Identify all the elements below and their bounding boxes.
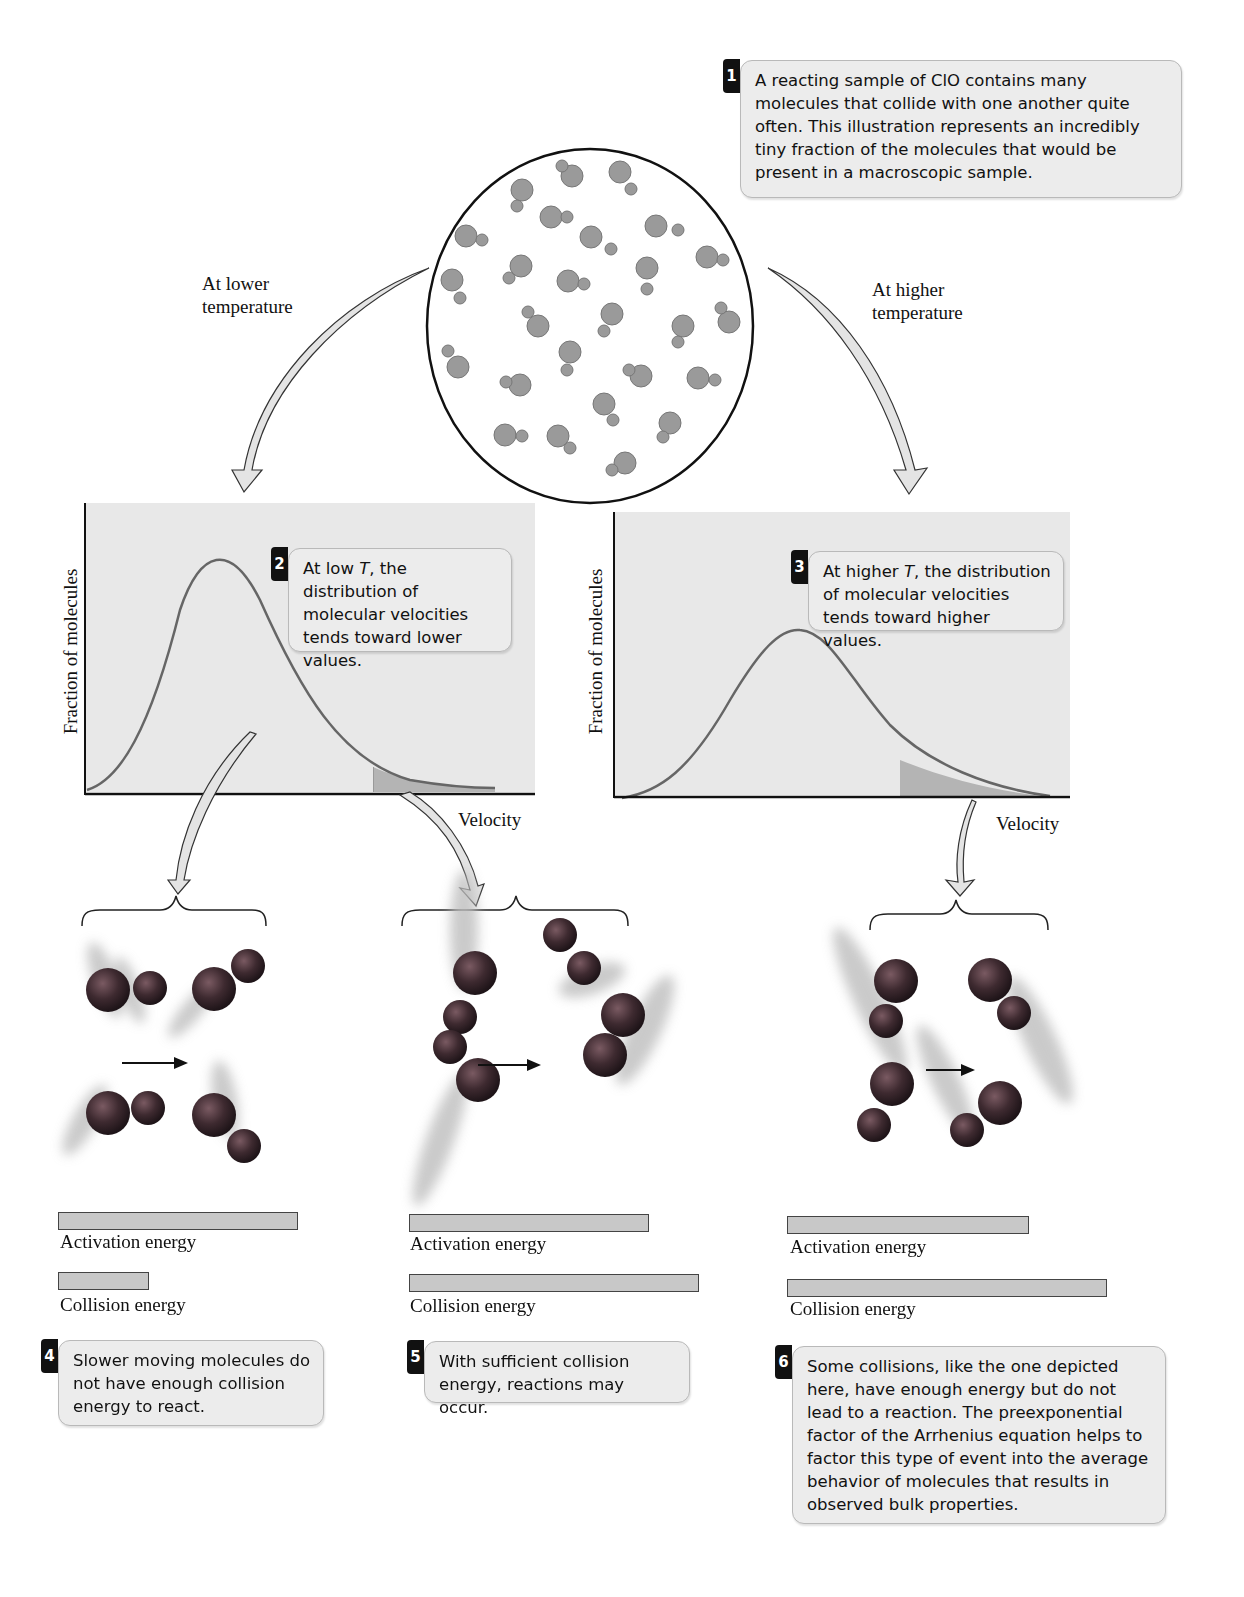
step-badge-2: 2 <box>271 547 288 581</box>
high-temperature-distribution-chart <box>610 500 1110 810</box>
collision-energy-label-1: Collision energy <box>60 1293 186 1316</box>
callout-5: 5 With sufficient collision energy, reac… <box>424 1341 690 1403</box>
collision-energy-bar-1 <box>58 1272 149 1290</box>
callout-6-text: Some collisions, like the one depicted h… <box>807 1357 1148 1514</box>
high-chart-ylabel: Fraction of molecules <box>584 562 607 742</box>
molecule-sample-circle <box>0 0 1244 520</box>
step-badge-3: 3 <box>791 550 808 584</box>
callout-2-text-italic: T <box>359 559 369 578</box>
lower-temperature-line1: At lower <box>202 272 293 295</box>
callout-3-text-italic: T <box>904 562 914 581</box>
lower-temperature-label: At lower temperature <box>202 272 293 318</box>
callout-3-text-pre: At higher <box>823 562 904 581</box>
collision-energy-bar-2 <box>409 1274 699 1292</box>
activation-energy-bar-3 <box>787 1216 1029 1234</box>
activation-energy-bar-1 <box>58 1212 298 1230</box>
collision-energy-label-2: Collision energy <box>410 1294 536 1317</box>
lower-temperature-line2: temperature <box>202 295 293 318</box>
activation-energy-label-1: Activation energy <box>60 1230 196 1253</box>
callout-6: 6 Some collisions, like the one depicted… <box>792 1346 1166 1524</box>
collision-energy-label-3: Collision energy <box>790 1297 916 1320</box>
callout-2: 2 At low T, the distribution of molecula… <box>288 548 512 652</box>
activation-energy-bar-2 <box>409 1214 649 1232</box>
activation-energy-label-2: Activation energy <box>410 1232 546 1255</box>
callout-5-text: With sufficient collision energy, reacti… <box>439 1352 629 1417</box>
higher-temperature-label: At higher temperature <box>872 278 963 324</box>
step-badge-6: 6 <box>775 1345 792 1379</box>
step-badge-4: 4 <box>41 1339 58 1373</box>
collision-illustrations <box>0 780 1244 1200</box>
low-chart-ylabel: Fraction of molecules <box>59 562 82 742</box>
callout-2-text-pre: At low <box>303 559 359 578</box>
callout-4: 4 Slower moving molecules do not have en… <box>58 1340 324 1426</box>
higher-temperature-line2: temperature <box>872 301 963 324</box>
higher-temperature-line1: At higher <box>872 278 963 301</box>
step-badge-5: 5 <box>407 1340 424 1374</box>
collision-energy-bar-3 <box>787 1279 1107 1297</box>
callout-3: 3 At higher T, the distribution of molec… <box>808 551 1064 631</box>
callout-4-text: Slower moving molecules do not have enou… <box>73 1351 310 1416</box>
activation-energy-label-3: Activation energy <box>790 1235 926 1258</box>
